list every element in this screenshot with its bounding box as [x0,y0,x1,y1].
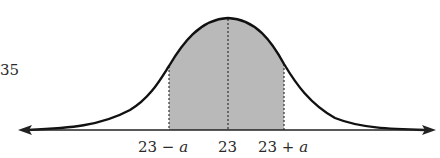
normal-curve-diagram: 35 23 − a 23 23 + a [0,0,440,158]
side-label: 35 [0,61,19,79]
tick-label-left: 23 − a [138,138,188,156]
tick-label-mean: 23 [218,138,237,156]
tick-label-right: 23 + a [258,138,308,156]
shaded-region [169,18,284,130]
